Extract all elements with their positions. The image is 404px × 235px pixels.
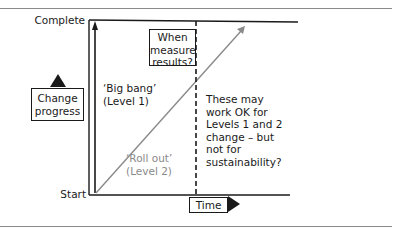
roll-out-label: ‘Roll out’ (Level 2) bbox=[126, 152, 172, 177]
roll-out-line2: (Level 2) bbox=[126, 165, 172, 178]
note-line5: not for bbox=[206, 143, 282, 156]
y-axis-title-box: Change progress bbox=[31, 88, 84, 121]
sustainability-note: These may work OK for Levels 1 and 2 cha… bbox=[206, 93, 282, 168]
measure-line1: When bbox=[150, 31, 195, 44]
note-line4: change – but bbox=[206, 131, 282, 144]
big-bang-label: ‘Big bang’ (Level 1) bbox=[103, 82, 156, 107]
big-bang-arrow bbox=[92, 21, 98, 193]
measure-line3: results? bbox=[150, 56, 195, 69]
note-line6: sustainability? bbox=[206, 156, 282, 169]
big-bang-line2: (Level 1) bbox=[103, 95, 156, 108]
roll-out-line1: ‘Roll out’ bbox=[126, 152, 172, 165]
up-triangle-icon bbox=[50, 74, 66, 87]
note-line1: These may bbox=[206, 93, 282, 106]
y-axis-bottom-label: Start bbox=[25, 188, 86, 201]
big-bang-line1: ‘Big bang’ bbox=[103, 82, 156, 95]
x-axis-title-box: Time bbox=[189, 197, 228, 213]
right-triangle-icon bbox=[228, 196, 240, 212]
y-axis-top-label: Complete bbox=[25, 14, 85, 27]
measure-line2: measure bbox=[150, 44, 195, 57]
y-axis-title-line2: progress bbox=[32, 105, 83, 118]
y-axis-title-line1: Change bbox=[32, 92, 83, 105]
note-line3: Levels 1 and 2 bbox=[206, 118, 282, 131]
note-line2: work OK for bbox=[206, 106, 282, 119]
measure-results-box: When measure results? bbox=[149, 29, 196, 66]
